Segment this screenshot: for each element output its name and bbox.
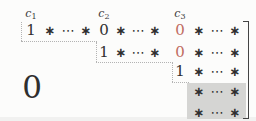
matrix-cell: ∗ bbox=[150, 24, 161, 37]
staircase-dotted-line bbox=[96, 42, 97, 62]
matrix-cell: 0 bbox=[175, 45, 185, 60]
matrix-cell: 0 bbox=[99, 23, 109, 38]
column-label: c1 bbox=[25, 8, 36, 21]
matrix-cell: ⋯ bbox=[132, 46, 145, 59]
zero-block-symbol: 0 bbox=[22, 72, 42, 103]
staircase-dotted-line bbox=[96, 62, 173, 63]
column-label: c3 bbox=[174, 8, 185, 21]
matrix-cell: ∗ bbox=[116, 24, 127, 37]
matrix-cell: ∗ bbox=[230, 46, 241, 59]
matrix-cell: ⋯ bbox=[211, 85, 224, 98]
matrix-cell: ⋯ bbox=[62, 24, 75, 37]
matrix-cell: ∗ bbox=[150, 46, 161, 59]
matrix-right-bracket bbox=[243, 21, 249, 119]
matrix-cell: ∗ bbox=[194, 106, 205, 119]
matrix-cell: ∗ bbox=[194, 24, 205, 37]
matrix-cell: ∗ bbox=[230, 24, 241, 37]
staircase-dotted-line bbox=[21, 41, 97, 42]
matrix-cell: ∗ bbox=[194, 65, 205, 78]
matrix-cell: 1 bbox=[26, 23, 36, 38]
matrix-cell: 1 bbox=[175, 64, 185, 79]
column-label: c2 bbox=[98, 8, 109, 21]
echelon-matrix-figure: 0 c1c2c31∗⋯∗0∗⋯∗0∗⋯∗1∗⋯∗0∗⋯∗1∗⋯∗∗⋯∗∗⋯∗ bbox=[0, 0, 256, 121]
matrix-cell: ⋯ bbox=[211, 106, 224, 119]
matrix-cell: ∗ bbox=[45, 24, 56, 37]
matrix-cell: ⋯ bbox=[211, 24, 224, 37]
matrix-cell: ∗ bbox=[116, 46, 127, 59]
matrix-cell: 0 bbox=[175, 23, 185, 38]
matrix-cell: ⋯ bbox=[211, 46, 224, 59]
matrix-cell: ⋯ bbox=[132, 24, 145, 37]
matrix-cell: ⋯ bbox=[211, 65, 224, 78]
matrix-cell: 1 bbox=[99, 45, 109, 60]
staircase-dotted-line bbox=[172, 63, 173, 82]
matrix-cell: ∗ bbox=[194, 46, 205, 59]
matrix-cell: ∗ bbox=[230, 106, 241, 119]
matrix-cell: ∗ bbox=[81, 24, 92, 37]
matrix-cell: ∗ bbox=[230, 65, 241, 78]
staircase-dotted-line bbox=[21, 22, 22, 41]
matrix-cell: ∗ bbox=[194, 85, 205, 98]
matrix-cell: ∗ bbox=[230, 85, 241, 98]
